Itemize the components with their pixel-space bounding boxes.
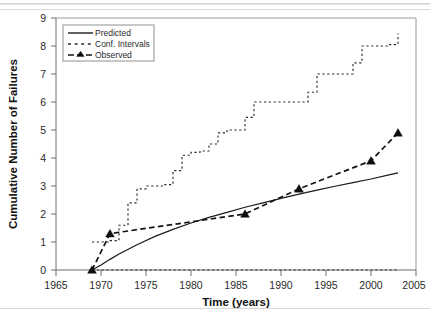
x-tick-label-1975: 1975 [134,279,158,291]
observed-data-point [295,185,304,193]
y-tick-label-9: 9 [40,12,46,24]
y-axis-title: Cumulative Number of Failures [7,59,19,229]
legend: Predicted Conf. Intervals Observed [63,25,154,61]
series-observed [92,133,398,270]
y-axis-ticks [51,18,56,270]
observed-data-point [394,129,403,137]
series-observed-markers [88,129,403,274]
x-tick-label-1990: 1990 [269,279,293,291]
legend-label-observed: Observed [95,50,132,60]
observed-data-point [241,210,250,218]
x-tick-label-1995: 1995 [314,279,338,291]
legend-label-conf-intervals: Conf. Intervals [95,39,150,49]
cumulative-failures-chart: 0 1 2 3 4 5 6 7 8 9 Cumulative Number of… [0,0,430,316]
y-tick-label-0: 0 [40,264,46,276]
legend-label-predicted: Predicted [95,28,131,38]
observed-data-point [106,229,115,237]
y-tick-label-5: 5 [40,124,46,136]
chart-svg: 0 1 2 3 4 5 6 7 8 9 Cumulative Number of… [0,0,430,316]
y-axis-tick-labels: 0 1 2 3 4 5 6 7 8 9 [40,12,46,276]
y-tick-label-7: 7 [40,68,46,80]
y-tick-label-1: 1 [40,236,46,248]
y-axis: 0 1 2 3 4 5 6 7 8 9 Cumulative Number of… [7,12,56,276]
figure-root: 0 1 2 3 4 5 6 7 8 9 Cumulative Number of… [0,0,430,316]
y-tick-label-2: 2 [40,208,46,220]
x-tick-label-1965: 1965 [44,279,68,291]
x-axis: 1965 1970 1975 1980 1985 1990 1995 2000 … [44,270,426,308]
observed-data-point [367,157,376,165]
y-tick-label-3: 3 [40,180,46,192]
x-axis-ticks [56,270,416,276]
x-tick-label-1970: 1970 [89,279,113,291]
y-tick-label-4: 4 [40,152,46,164]
x-tick-label-1980: 1980 [179,279,203,291]
x-axis-title: Time (years) [202,296,270,308]
x-axis-tick-labels: 1965 1970 1975 1980 1985 1990 1995 2000 … [44,279,426,291]
series-predicted [92,173,398,270]
x-tick-label-2000: 2000 [359,279,383,291]
y-tick-label-8: 8 [40,40,46,52]
x-tick-label-2005: 2005 [402,279,426,291]
x-tick-label-1985: 1985 [224,279,248,291]
series-layer [88,33,403,273]
y-tick-label-6: 6 [40,96,46,108]
